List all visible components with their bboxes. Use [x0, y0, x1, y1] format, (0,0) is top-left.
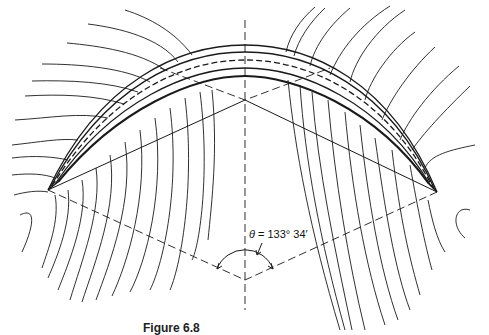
streamlines-right-lower: [288, 80, 470, 330]
streamlines-left-upper: [12, 10, 192, 195]
blade-arch: [48, 45, 437, 192]
streamlines-left-lower: [20, 90, 215, 302]
figure-caption: Figure 6.8: [143, 321, 200, 335]
angle-value: = 133° 34′: [255, 228, 308, 240]
angle-label: θ = 133° 34′: [249, 228, 308, 240]
streamlines-right-upper: [286, 6, 475, 168]
